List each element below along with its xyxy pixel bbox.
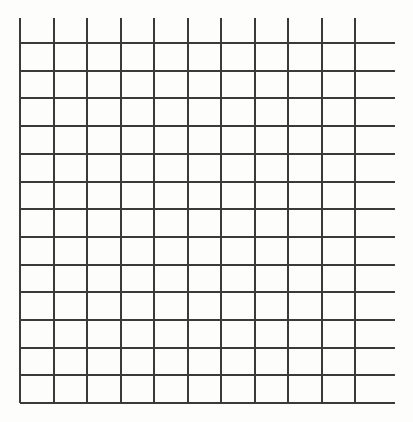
- grid-background: [0, 0, 413, 422]
- grid-svg: [0, 0, 413, 422]
- grid-diagram: [0, 0, 413, 422]
